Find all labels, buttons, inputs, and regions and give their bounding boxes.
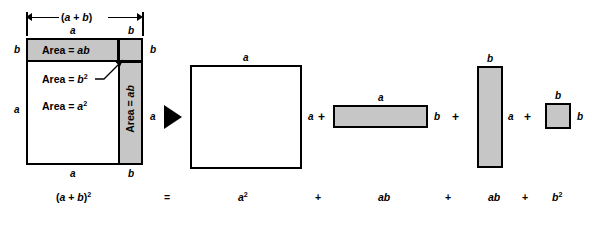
- dimension-line-left: [31, 17, 59, 19]
- region-corner-square-label: Area = b2: [42, 74, 88, 85]
- shape-b-squared-square: [545, 103, 571, 129]
- top-segment-label-a: a: [70, 26, 76, 36]
- equation-term-b-squared: b2: [552, 192, 562, 203]
- shape-ab-vertical-rect: [477, 66, 503, 168]
- left-segment-label-b: b: [14, 45, 20, 55]
- equation-term-ab-1: ab: [378, 192, 390, 203]
- region-right-column-label: Area = ab: [125, 88, 136, 133]
- shape-ab-horizontal-top-label: a: [378, 93, 384, 103]
- region-top-band-label: Area = ab: [42, 45, 90, 56]
- shape-ab-vertical-top-label: b: [487, 54, 493, 64]
- top-segment-label-b: b: [128, 26, 134, 36]
- equation-equals-sign: =: [164, 192, 170, 203]
- equation-plus-2: +: [445, 192, 451, 203]
- shape-a-squared-top-label: a: [243, 53, 249, 63]
- figure-canvas: (a + b) a b Area = ab Area = ab Area = b…: [0, 0, 592, 248]
- plus-sign-1: +: [318, 111, 325, 123]
- dimension-arrowhead-right: [137, 13, 143, 21]
- shape-ab-vertical-right-label: a: [508, 112, 514, 122]
- bottom-segment-label-a: a: [70, 169, 76, 179]
- equation-plus-3: +: [522, 192, 528, 203]
- equation-plus-1: +: [315, 192, 321, 203]
- region-main-square-label: Area = a2: [42, 101, 87, 112]
- plus-sign-2: +: [452, 111, 459, 123]
- plus-sign-3: +: [524, 111, 531, 123]
- dimension-arrowhead-left: [26, 13, 32, 21]
- shape-ab-horizontal-right-label: b: [434, 112, 440, 122]
- equation-term-a-squared: a2: [238, 192, 248, 203]
- bottom-segment-label-b: b: [128, 169, 134, 179]
- callout-leader-line: [95, 55, 129, 85]
- equation-term-ab-2: ab: [488, 192, 500, 203]
- left-segment-label-a: a: [14, 105, 20, 115]
- shape-b-squared-top-label: b: [555, 91, 561, 101]
- region-right-column-label-wrap: Area = ab: [108, 105, 153, 119]
- shape-ab-horizontal-rect: [333, 105, 428, 128]
- dimension-line-right: [108, 17, 137, 19]
- equals-arrow-icon: [163, 103, 183, 131]
- shape-a-squared-right-label: a: [308, 112, 314, 122]
- shape-a-squared-square: [190, 65, 302, 169]
- equation-left-hand-side: (a + b)2: [56, 192, 91, 203]
- right-segment-label-a: a: [150, 112, 156, 122]
- top-dimension-label: (a + b): [61, 12, 92, 23]
- shape-b-squared-right-label: b: [577, 112, 583, 122]
- right-segment-label-b: b: [150, 45, 156, 55]
